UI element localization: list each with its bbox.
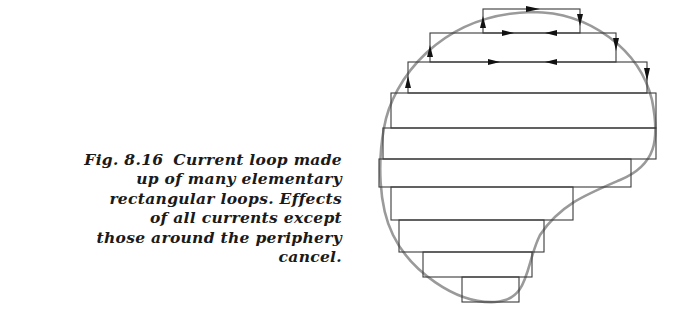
rect-row-2 <box>430 33 616 62</box>
rect-row-4 <box>391 93 656 128</box>
rect-row-5 <box>383 128 656 159</box>
caption-line: of all currents except <box>20 208 342 227</box>
caption-line: rectangular loops. Effects <box>20 189 342 208</box>
arrow-right-icon <box>502 30 514 36</box>
caption-line: up of many elementary <box>20 169 342 188</box>
arrow-right-icon <box>488 59 500 65</box>
caption-line: Current loop made <box>173 150 342 169</box>
figure-caption: Fig. 8.16Current loop made up of many el… <box>20 150 342 266</box>
current-arrows <box>405 6 650 88</box>
caption-line: those around the periphery <box>20 228 342 247</box>
rect-row-9 <box>423 252 532 277</box>
caption-line: cancel. <box>20 247 342 266</box>
figure-number: Fig. 8.16 <box>84 150 163 169</box>
rect-row-3 <box>408 62 647 93</box>
arrow-left-icon <box>545 30 557 36</box>
periphery-loop-curve <box>380 12 655 302</box>
rect-row-6 <box>379 159 631 187</box>
rect-row-8 <box>399 220 544 252</box>
arrow-left-icon <box>545 59 557 65</box>
elementary-rectangles <box>379 9 656 302</box>
rect-row-7 <box>391 187 573 220</box>
